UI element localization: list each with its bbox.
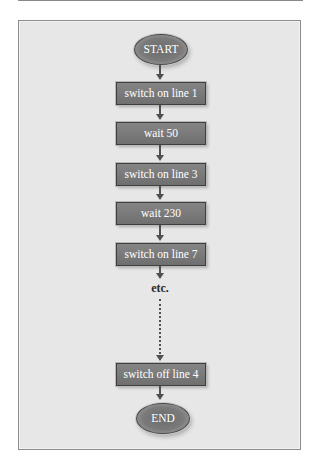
connector-step4-step5 — [159, 225, 161, 235]
arrowhead-icon — [156, 235, 164, 241]
arrowhead-icon — [156, 394, 164, 400]
arrowhead-icon — [156, 355, 164, 361]
process-step-4: wait 230 — [116, 202, 206, 225]
continuation-label: etc. — [140, 281, 180, 296]
process-step-3: switch on line 3 — [116, 163, 206, 186]
start-terminal: START — [134, 34, 188, 65]
arrowhead-icon — [156, 74, 164, 80]
arrowhead-icon — [156, 273, 164, 279]
process-step-1: switch on line 1 — [116, 82, 206, 105]
dotted-continuation-line — [159, 299, 161, 354]
end-terminal: END — [136, 403, 190, 434]
connector-step2-step3 — [159, 145, 161, 155]
previous-figure-edge — [18, 0, 303, 1]
connector-step1-step2 — [159, 105, 161, 114]
process-step-2: wait 50 — [116, 122, 206, 145]
arrowhead-icon — [156, 155, 164, 161]
process-step-6: switch off line 4 — [116, 363, 206, 386]
process-step-5: switch on line 7 — [116, 243, 206, 266]
arrowhead-icon — [156, 194, 164, 200]
arrowhead-icon — [156, 114, 164, 120]
